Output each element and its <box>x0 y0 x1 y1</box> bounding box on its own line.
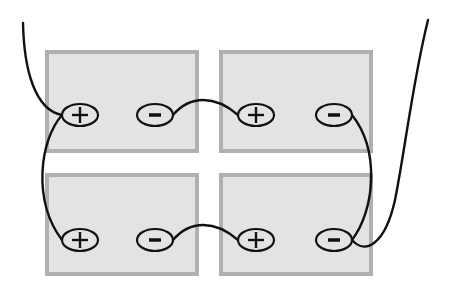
terminal-negative-top-right <box>316 104 352 126</box>
battery-bottom-right <box>221 175 371 274</box>
terminal-negative-bottom-right <box>316 229 352 251</box>
battery-top-left <box>47 52 197 151</box>
terminal-negative-top-left <box>137 104 173 126</box>
terminal-positive-bottom-right <box>238 229 274 251</box>
battery-wiring-diagram <box>0 0 452 297</box>
terminal-negative-bottom-left <box>137 229 173 251</box>
terminal-positive-bottom-left <box>62 229 98 251</box>
terminal-positive-top-right <box>238 104 274 126</box>
battery-bottom-left <box>47 175 197 274</box>
battery-top-right <box>221 52 371 151</box>
terminal-positive-top-left <box>62 104 98 126</box>
